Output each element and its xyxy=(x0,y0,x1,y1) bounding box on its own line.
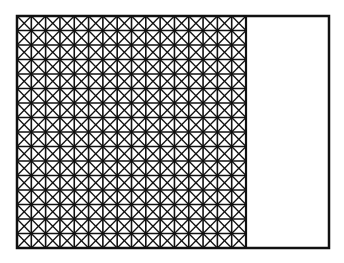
area-model-diagram xyxy=(0,0,344,263)
hatched-grid-region xyxy=(17,16,246,248)
